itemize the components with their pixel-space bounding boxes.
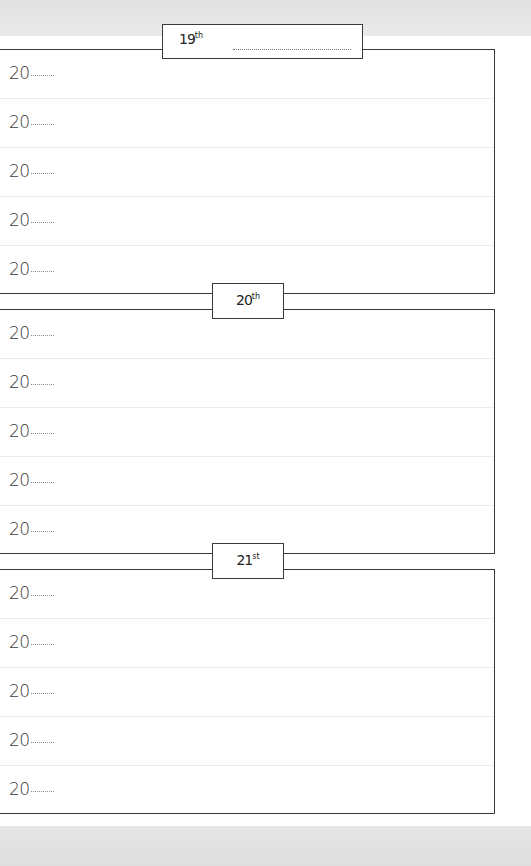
month-fill-line[interactable] (233, 49, 351, 50)
year-prefix: 20 (9, 372, 30, 392)
year-prefix: 20 (9, 63, 30, 83)
year-prefix: 20 (9, 730, 30, 750)
year-fill-line[interactable] (31, 222, 54, 223)
year-entry-row[interactable]: 20 (0, 148, 494, 197)
year-prefix: 20 (9, 779, 30, 799)
day-section-21st: 20 20 20 20 20 (0, 569, 495, 814)
year-prefix: 20 (9, 259, 30, 279)
year-fill-line[interactable] (31, 791, 54, 792)
year-prefix: 20 (9, 583, 30, 603)
year-fill-line[interactable] (31, 693, 54, 694)
year-fill-line[interactable] (31, 384, 54, 385)
year-fill-line[interactable] (31, 595, 54, 596)
year-entry-row[interactable]: 20 (0, 766, 494, 815)
year-prefix: 20 (9, 421, 30, 441)
year-fill-line[interactable] (31, 124, 54, 125)
year-fill-line[interactable] (31, 335, 54, 336)
year-entry-row[interactable]: 20 (0, 619, 494, 668)
day-tab-21st: 21st (212, 543, 284, 579)
year-prefix: 20 (9, 112, 30, 132)
year-prefix: 20 (9, 632, 30, 652)
year-prefix: 20 (9, 519, 30, 539)
year-prefix: 20 (9, 323, 30, 343)
year-fill-line[interactable] (31, 742, 54, 743)
year-prefix: 20 (9, 161, 30, 181)
year-entry-row[interactable]: 20 (0, 359, 494, 408)
day-tab-19th: 19th (162, 24, 363, 59)
year-entry-row[interactable]: 20 (0, 717, 494, 766)
year-entry-row[interactable]: 20 (0, 197, 494, 246)
day-label: 19th (179, 31, 203, 47)
day-label: 21st (213, 552, 283, 568)
year-fill-line[interactable] (31, 271, 54, 272)
year-fill-line[interactable] (31, 75, 54, 76)
year-fill-line[interactable] (31, 644, 54, 645)
year-fill-line[interactable] (31, 531, 54, 532)
day-section-19th: 20 20 20 20 20 (0, 49, 495, 294)
year-prefix: 20 (9, 470, 30, 490)
day-tab-20th: 20th (212, 283, 284, 319)
year-fill-line[interactable] (31, 173, 54, 174)
bottom-margin (0, 826, 531, 866)
day-label: 20th (213, 292, 283, 308)
year-entry-row[interactable]: 20 (0, 408, 494, 457)
day-section-20th: 20 20 20 20 20 (0, 309, 495, 554)
year-prefix: 20 (9, 210, 30, 230)
year-entry-row[interactable]: 20 (0, 668, 494, 717)
year-fill-line[interactable] (31, 482, 54, 483)
year-entry-row[interactable]: 20 (0, 99, 494, 148)
year-entry-row[interactable]: 20 (0, 457, 494, 506)
year-prefix: 20 (9, 681, 30, 701)
year-fill-line[interactable] (31, 433, 54, 434)
